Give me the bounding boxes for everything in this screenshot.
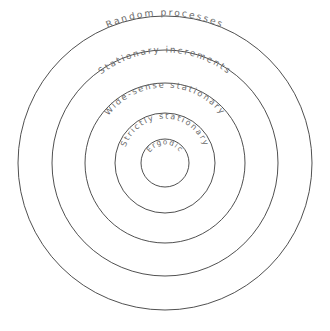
ring-group-stationary-increments: Stationary increments <box>52 45 278 276</box>
label-random-processes: Random processes <box>104 6 226 29</box>
label-stationary-increments-text: Stationary increments <box>96 45 233 77</box>
label-ergodic: Ergodic <box>144 137 185 154</box>
label-stationary-increments: Stationary increments <box>96 45 233 77</box>
nested-circles-diagram: Random processes Stationary increments W… <box>0 0 330 331</box>
label-wide-sense-stationary: Wide-sense stationary <box>102 79 228 117</box>
label-wide-sense-stationary-text: Wide-sense stationary <box>102 79 228 117</box>
venn-diagram-canvas: Random processes Stationary increments W… <box>0 0 330 331</box>
ring-group-ergodic: Ergodic <box>141 137 189 187</box>
label-random-processes-text: Random processes <box>104 6 226 29</box>
circle-random-processes <box>18 16 312 310</box>
label-ergodic-text: Ergodic <box>144 137 185 154</box>
ring-group-wide-sense-stationary: Wide-sense stationary <box>85 79 245 243</box>
ring-group-strictly-stationary: Strictly stationary <box>115 112 215 213</box>
